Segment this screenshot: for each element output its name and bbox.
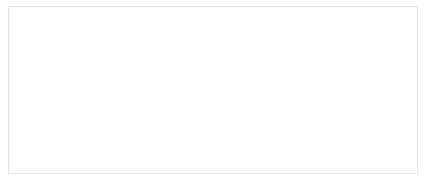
chart-frame [8,6,418,174]
chart-container: 00.10.20.30.40.50.60.7020004000600080001… [0,0,430,183]
